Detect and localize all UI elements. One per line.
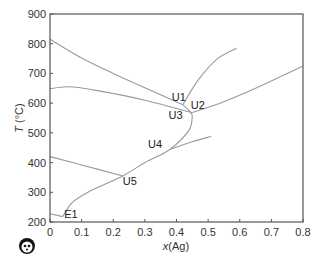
invariant-point-label-u2: U2 [191, 99, 205, 111]
invariant-point-label-u5: U5 [123, 175, 137, 187]
y-tick-label: 500 [28, 127, 46, 139]
y-axis-label: T (°C) [13, 103, 25, 132]
phase-boundary-curve [183, 48, 237, 104]
x-tick-label: 0.6 [232, 226, 247, 238]
phase-boundary-curve [50, 39, 183, 104]
x-axis-label: x(Ag) [162, 240, 189, 252]
y-tick-label: 800 [28, 38, 46, 50]
y-tick-label: 900 [28, 8, 46, 20]
phase-boundary-curve [192, 66, 303, 113]
x-tick-label: 0 [47, 226, 53, 238]
x-tick-label: 0.5 [200, 226, 215, 238]
y-tick-label: 600 [28, 97, 46, 109]
phase-diagram-chart: 00.10.20.30.40.50.60.70.8 20030040050060… [0, 0, 317, 266]
y-axis-ticks: 200300400500600700800900 [28, 8, 53, 228]
phase-boundary-curve [170, 136, 211, 149]
y-tick-label: 400 [28, 157, 46, 169]
y-tick-label: 700 [28, 67, 46, 79]
x-tick-label: 0.8 [295, 226, 310, 238]
phase-boundary-curve [50, 157, 123, 176]
y-tick-label: 300 [28, 186, 46, 198]
y-tick-label: 200 [28, 216, 46, 228]
panda-logo-icon [18, 237, 36, 255]
invariant-point-label-e1: E1 [64, 208, 77, 220]
curves [50, 39, 303, 216]
x-tick-label: 0.1 [74, 226, 89, 238]
phase-boundary-curve [63, 115, 193, 217]
invariant-point-label-u4: U4 [148, 138, 162, 150]
invariant-point-label-u3: U3 [169, 109, 183, 121]
invariant-point-label-u1: U1 [172, 91, 186, 103]
x-tick-label: 0.4 [169, 226, 184, 238]
x-tick-label: 0.3 [137, 226, 152, 238]
x-tick-label: 0.7 [264, 226, 279, 238]
x-tick-label: 0.2 [106, 226, 121, 238]
phase-boundary-curve [50, 214, 63, 217]
